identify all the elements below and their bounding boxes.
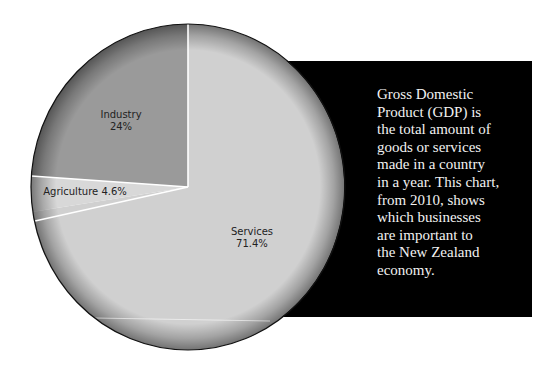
label-services-value: 71.4%: [231, 238, 273, 250]
label-industry-value: 24%: [100, 121, 141, 133]
description-text: Gross Domestic Product (GDP) is the tota…: [377, 86, 527, 280]
label-agriculture: Agriculture 4.6%: [43, 186, 127, 198]
label-services-name: Services: [231, 226, 273, 238]
label-industry-name: Industry: [100, 109, 141, 121]
label-services: Services 71.4%: [231, 226, 273, 250]
label-industry: Industry 24%: [100, 109, 141, 133]
